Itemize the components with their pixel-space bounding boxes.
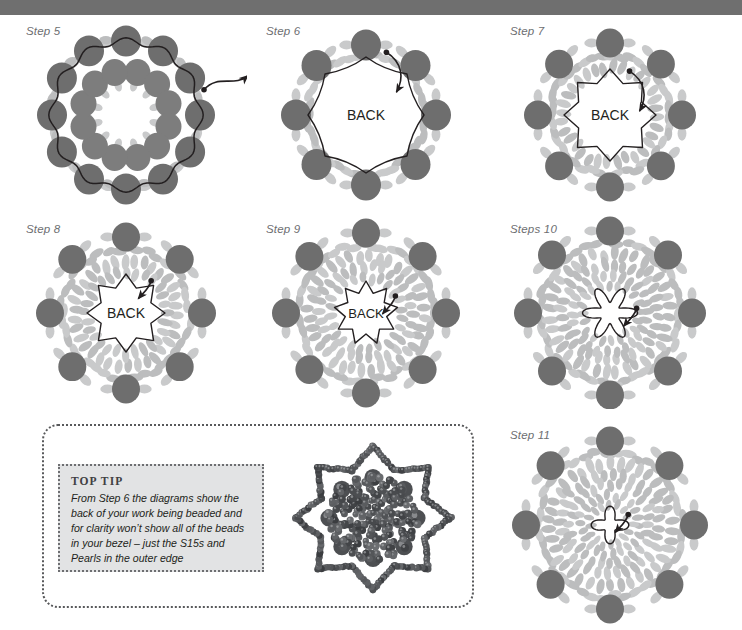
seed-bead: [649, 113, 664, 122]
pearl-bead: [512, 511, 540, 540]
pearl-bead: [545, 50, 573, 79]
pearl-bead: [680, 511, 708, 540]
pearl-bead: [302, 50, 332, 81]
seed-bead: [607, 334, 616, 347]
seed-bead: [606, 280, 614, 292]
center-back-label: BACK: [591, 107, 630, 123]
seed-bead: [575, 520, 585, 527]
seed-bead: [591, 363, 602, 379]
seed-bead: [67, 315, 82, 324]
seed-bead: [652, 311, 666, 321]
pearl-bead: [538, 357, 566, 386]
seed-bead: [627, 249, 641, 264]
seed-bead: [367, 364, 375, 378]
diagram-cell-step9: Step 9 BACK: [240, 213, 487, 409]
photo-bead: [376, 556, 384, 564]
pearl-bead: [654, 357, 682, 386]
pearl-bead: [295, 355, 323, 384]
pearl-bead: [112, 223, 140, 252]
beadwork-photo-svg: [280, 434, 466, 602]
diagram-cell-step7: Step 7 BACK: [484, 15, 731, 211]
beadwork-photo-canvas: [280, 434, 466, 606]
photo-bead: [405, 518, 411, 524]
pearl-bead: [409, 242, 437, 271]
pearl-bead: [111, 26, 141, 57]
photo-bead: [366, 556, 373, 563]
pearl-bead: [537, 570, 565, 599]
pearl-bead: [537, 451, 565, 480]
pearl-bead: [524, 101, 552, 130]
top-tip-panel: TOP TIP From Step 6 the diagrams show th…: [42, 424, 474, 608]
photo-bead: [368, 487, 375, 494]
photo-bead: [401, 544, 409, 552]
photo-bead: [331, 532, 338, 539]
top-banner-band: [0, 0, 742, 15]
seed-bead: [664, 537, 679, 545]
seed-bead: [600, 271, 607, 282]
pearl-bead: [36, 299, 64, 328]
photo-bead: [352, 475, 360, 483]
photo-bead: [408, 535, 414, 541]
diagram-grid: Step 5 Step 6 BACK Step 7 BACK Step 8 BA…: [0, 15, 742, 415]
pearl-bead: [188, 299, 216, 328]
photo-bead: [411, 507, 418, 514]
pearl-bead: [302, 149, 332, 180]
photo-bead: [349, 487, 356, 494]
photo-bead: [339, 543, 347, 551]
bead-diagram-step8: BACK: [0, 213, 247, 409]
center-back-label: BACK: [107, 305, 146, 321]
photo-bead: [341, 510, 348, 517]
photo-bead: [325, 509, 333, 517]
seed-bead: [583, 514, 594, 521]
pearl-bead: [596, 427, 624, 456]
seed-bead: [357, 362, 366, 378]
pearl-bead: [432, 299, 460, 328]
top-tip-heading: TOP TIP: [71, 475, 252, 489]
bead-diagram-step6: BACK: [240, 15, 487, 211]
seed-bead: [541, 525, 557, 534]
photo-bead: [332, 493, 338, 499]
bead-diagram-step7: BACK: [484, 15, 731, 211]
pearl-bead: [545, 151, 573, 180]
photo-bead: [403, 502, 410, 509]
photo-bead: [354, 520, 361, 527]
diagram-cell-step8: Step 8 BACK: [0, 213, 247, 409]
pearl-bead: [281, 100, 311, 131]
seed-bead: [80, 300, 94, 308]
photo-bead: [366, 532, 373, 539]
pearl-bead: [409, 355, 437, 384]
pearl-bead: [352, 379, 380, 408]
pearl-bead: [647, 151, 675, 180]
pearl-bead: [272, 299, 300, 328]
bead-diagram-step9: BACK: [240, 213, 487, 409]
seed-bead: [555, 98, 572, 110]
seed-bead: [662, 301, 678, 310]
pearl-bead: [421, 100, 451, 131]
photo-bead: [414, 520, 422, 528]
photo-bead: [399, 486, 406, 493]
photo-bead: [329, 524, 336, 531]
pearl-bead: [596, 217, 624, 246]
pearl-bead: [596, 595, 624, 624]
pearl-bead: [538, 241, 566, 270]
seed-bead: [611, 365, 619, 380]
pearl-bead: [596, 173, 624, 202]
pearl-bead: [352, 219, 380, 248]
pearl-bead: [185, 100, 215, 131]
pearl-bead: [514, 299, 542, 328]
pearl-bead: [401, 50, 431, 81]
photo-bead: [349, 550, 356, 557]
photo-bead: [369, 473, 376, 480]
seed-bead: [375, 272, 386, 286]
pearl-bead: [58, 352, 86, 381]
seed-bead: [584, 575, 597, 591]
photo-bead: [404, 510, 412, 518]
pearl-bead: [37, 100, 67, 131]
seed-bead: [130, 254, 139, 269]
thread-path-step8: BACK: [87, 274, 165, 352]
photo-bead: [364, 481, 371, 488]
pearl-bead: [596, 29, 624, 58]
seed-bead: [134, 357, 143, 372]
thread-path-step9: BACK: [335, 281, 398, 343]
pearl-bead: [668, 101, 696, 130]
